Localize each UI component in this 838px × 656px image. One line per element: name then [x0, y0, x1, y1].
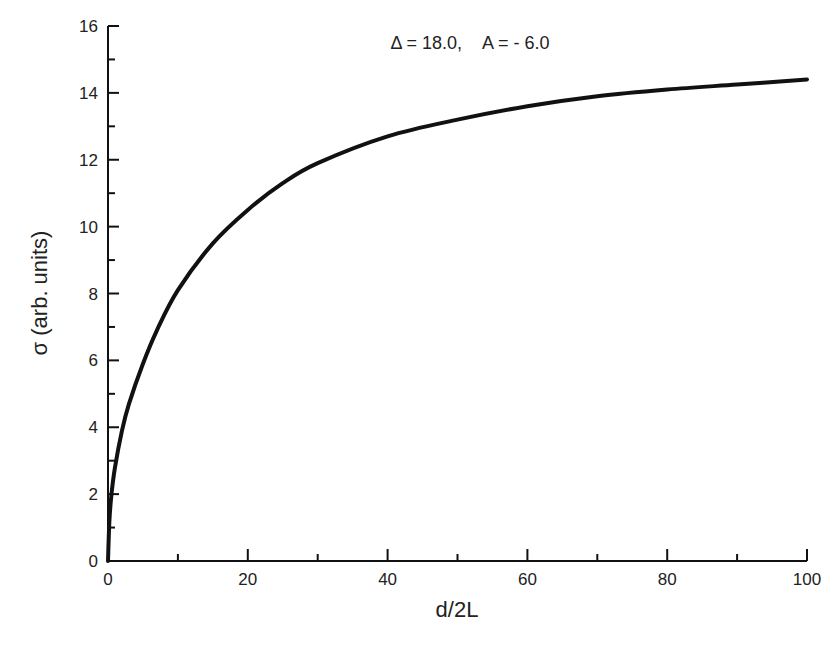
y-tick-label: 6 [89, 351, 98, 370]
y-tick-label: 16 [79, 17, 98, 36]
y-axis-title: σ (arb. units) [27, 231, 52, 356]
y-tick-label: 2 [89, 485, 98, 504]
x-tick-label: 60 [518, 570, 537, 589]
y-tick-label: 8 [89, 285, 98, 304]
data-series-sigma [108, 80, 807, 562]
y-tick-label: 4 [89, 418, 98, 437]
x-tick-label: 40 [378, 570, 397, 589]
tick-labels: 0246810121416020406080100 [79, 17, 821, 589]
x-tick-label: 20 [238, 570, 257, 589]
y-tick-label: 10 [79, 218, 98, 237]
axes [108, 26, 807, 561]
tick-marks [108, 26, 807, 561]
y-tick-label: 0 [89, 552, 98, 571]
parameter-annotation: Δ = 18.0, A = - 6.0 [390, 33, 549, 53]
x-tick-label: 0 [103, 570, 112, 589]
y-tick-label: 14 [79, 84, 98, 103]
y-tick-label: 12 [79, 151, 98, 170]
x-tick-label: 80 [658, 570, 677, 589]
x-tick-label: 100 [793, 570, 821, 589]
chart: 0246810121416020406080100 Δ = 18.0, A = … [0, 0, 838, 656]
x-axis-title: d/2L [436, 597, 479, 622]
